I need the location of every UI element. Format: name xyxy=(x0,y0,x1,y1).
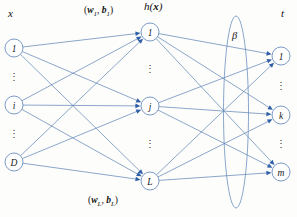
ellipsis-hidden-0: ⋮ xyxy=(145,64,155,74)
ellipsis-input-1: ⋮ xyxy=(9,129,19,139)
weight-first-paren-close: ) xyxy=(110,5,113,15)
weight-label-last: (wL, bL) xyxy=(88,196,118,208)
edge-arrowhead xyxy=(267,105,272,110)
nodes-group: 1iD1jL1km xyxy=(5,23,290,190)
ellipsis-input-0: ⋮ xyxy=(9,72,19,82)
edge-arrowhead xyxy=(135,177,140,182)
node-label-input-D: D xyxy=(10,158,18,168)
connection-edge xyxy=(22,111,138,159)
connection-edge xyxy=(23,105,138,106)
edge-arrowhead xyxy=(266,171,271,176)
node-label-input-1: 1 xyxy=(12,44,17,54)
network-canvas: 1iD1jL1km xyxy=(0,0,297,217)
ellipsis-hidden-1: ⋮ xyxy=(145,139,155,149)
connection-edge xyxy=(159,34,269,54)
node-label-output-m: m xyxy=(278,168,285,178)
beta-label: β xyxy=(232,31,237,42)
edge-arrowhead xyxy=(266,112,271,117)
edge-arrowhead xyxy=(135,104,140,109)
connection-edge xyxy=(22,38,139,101)
connection-edge xyxy=(20,54,141,172)
ellipsis-output-1: ⋮ xyxy=(276,139,286,149)
node-label-input-i: i xyxy=(13,101,16,111)
ellipsis-output-0: ⋮ xyxy=(276,81,286,91)
hidden-label-paren-close: ) xyxy=(159,0,163,12)
connection-edge xyxy=(158,60,269,102)
connection-edge xyxy=(21,40,142,155)
connection-edge xyxy=(156,39,273,164)
connection-edge xyxy=(22,109,139,175)
hidden-layer-label: h(x) xyxy=(144,1,162,12)
edge-arrowhead xyxy=(135,31,140,36)
node-label-hidden-L: L xyxy=(146,177,152,187)
connection-edge xyxy=(23,33,138,47)
connection-edge xyxy=(158,120,270,176)
edge-arrowhead xyxy=(266,51,271,56)
weight-last-paren-close: ) xyxy=(115,195,118,205)
neural-network-diagram: 1iD1jL1km x h(x) t (w1, b1) (wL, bL) β ⋮… xyxy=(0,0,297,217)
edge-arrowhead xyxy=(267,59,272,63)
connection-edge xyxy=(158,37,271,109)
weight-label-first: (w1, b1) xyxy=(84,6,113,18)
connection-edge xyxy=(23,163,138,179)
output-layer-label: t xyxy=(281,8,284,19)
connection-edge xyxy=(159,173,269,181)
input-layer-label: x xyxy=(8,8,13,19)
connection-edge xyxy=(159,107,269,115)
node-label-output-1: 1 xyxy=(279,52,284,62)
node-label-hidden-1: 1 xyxy=(148,28,153,38)
connection-edge xyxy=(157,64,273,174)
connection-edge xyxy=(158,110,270,166)
